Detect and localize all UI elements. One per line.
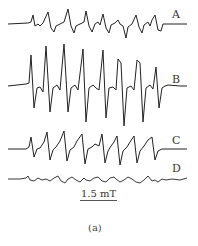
epr-spectra-plot-lower: [0, 0, 198, 246]
trace-label-a: A: [172, 8, 180, 21]
figure-caption: (a): [88, 222, 102, 233]
trace-label-d: D: [172, 162, 181, 175]
trace-d-line: [8, 176, 187, 183]
scale-bar-label: 1.5 mT: [80, 188, 117, 201]
trace-label-b: B: [172, 73, 180, 86]
trace-label-c: C: [172, 134, 180, 147]
